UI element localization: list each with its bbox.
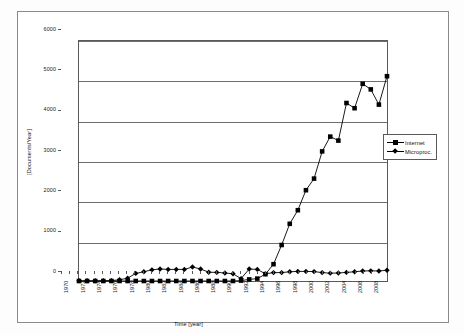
- x-tick-label: 1976: [112, 281, 118, 293]
- y-tick-label: 0: [18, 268, 56, 274]
- x-tick-mark: [224, 271, 225, 274]
- x-tick-label: 1992: [243, 281, 249, 293]
- x-tick-label: 1982: [161, 281, 167, 293]
- x-tick-label: 1970: [63, 281, 69, 293]
- x-tick-mark: [200, 271, 201, 274]
- chart-figure: [Documents/Year] 01000200030004000500060…: [0, 0, 464, 335]
- gridline: [79, 122, 387, 123]
- x-tick-mark: [134, 271, 135, 274]
- x-tick-mark: [183, 271, 184, 274]
- x-tick-label: 1974: [96, 281, 102, 293]
- x-tick-label: 1996: [275, 281, 281, 293]
- x-tick-mark: [281, 271, 282, 274]
- x-tick-mark: [232, 271, 233, 274]
- gridline: [79, 162, 387, 163]
- x-tick-mark: [77, 271, 78, 274]
- x-tick-mark: [306, 271, 307, 274]
- x-tick-mark: [208, 271, 209, 274]
- y-tick-mark: [58, 150, 61, 151]
- x-tick-label: 2006: [357, 281, 363, 293]
- figure-frame: [Documents/Year] 01000200030004000500060…: [17, 11, 449, 323]
- diamond-marker-icon: [387, 147, 404, 156]
- x-tick-label: 1980: [145, 281, 151, 293]
- x-tick-mark: [355, 271, 356, 274]
- x-tick-label: 1990: [226, 281, 232, 293]
- plot-area: [78, 40, 388, 282]
- x-tick-label: 1998: [292, 281, 298, 293]
- gridline: [79, 243, 387, 244]
- x-tick-mark: [151, 271, 152, 274]
- x-tick-mark: [102, 271, 103, 274]
- x-tick-label: 1986: [194, 281, 200, 293]
- x-tick-mark: [338, 271, 339, 274]
- gridline: [79, 81, 387, 82]
- y-tick-label: 4000: [18, 106, 56, 112]
- x-axis-title: Time [year]: [174, 321, 203, 327]
- x-tick-mark: [347, 271, 348, 274]
- x-tick-mark: [143, 271, 144, 274]
- x-tick-label: 2004: [341, 281, 347, 293]
- x-tick-mark: [322, 271, 323, 274]
- legend-label: Internet: [405, 140, 425, 146]
- x-tick-mark: [118, 271, 119, 274]
- x-tick-label: 1978: [129, 281, 135, 293]
- x-tick-mark: [298, 271, 299, 274]
- x-tick-label: 1988: [210, 281, 216, 293]
- x-tick-mark: [175, 271, 176, 274]
- x-tick-mark: [330, 271, 331, 274]
- x-tick-mark: [192, 271, 193, 274]
- x-tick-label: 1984: [178, 281, 184, 293]
- x-tick-mark: [265, 271, 266, 274]
- x-tick-mark: [240, 271, 241, 274]
- x-tick-mark: [85, 271, 86, 274]
- gridline: [79, 41, 387, 42]
- x-tick-mark: [61, 271, 62, 274]
- x-tick-mark: [110, 271, 111, 274]
- y-tick-mark: [58, 231, 61, 232]
- x-tick-mark: [167, 271, 168, 274]
- x-tick-mark: [314, 271, 315, 274]
- x-tick-mark: [126, 271, 127, 274]
- series-internet: [77, 74, 390, 283]
- y-tick-label: 5000: [18, 66, 56, 72]
- y-tick-label: 2000: [18, 187, 56, 193]
- y-tick-label: 1000: [18, 227, 56, 233]
- y-tick-mark: [58, 29, 61, 30]
- x-tick-mark: [69, 271, 70, 274]
- x-tick-label: 1972: [80, 281, 86, 293]
- x-tick-mark: [216, 271, 217, 274]
- x-tick-mark: [159, 271, 160, 274]
- series-layer: [79, 41, 387, 281]
- x-tick-label: 2002: [324, 281, 330, 293]
- x-tick-mark: [371, 271, 372, 274]
- x-tick-mark: [289, 271, 290, 274]
- y-tick-mark: [58, 190, 61, 191]
- x-tick-mark: [257, 271, 258, 274]
- x-tick-label: 1994: [259, 281, 265, 293]
- x-tick-mark: [94, 271, 95, 274]
- square-marker-icon: [387, 138, 404, 147]
- y-tick-mark: [58, 110, 61, 111]
- gridline: [79, 202, 387, 203]
- chart-legend: Internet Microproc.: [383, 134, 437, 160]
- y-tick-label: 3000: [18, 147, 56, 153]
- x-tick-mark: [249, 271, 250, 274]
- x-tick-mark: [363, 271, 364, 274]
- x-tick-label: 2000: [308, 281, 314, 293]
- legend-item-microproc: Microproc.: [387, 147, 432, 156]
- y-tick-mark: [58, 69, 61, 70]
- x-tick-label: 2008: [373, 281, 379, 293]
- y-tick-label: 6000: [18, 26, 56, 32]
- x-tick-mark: [273, 271, 274, 274]
- legend-item-internet: Internet: [387, 138, 432, 147]
- legend-label: Microproc.: [405, 149, 432, 155]
